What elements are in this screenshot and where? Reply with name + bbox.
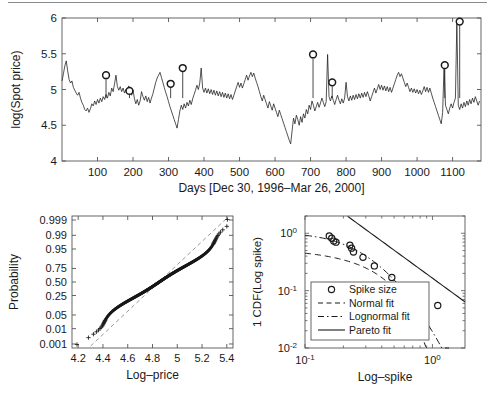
plot-frame xyxy=(72,216,233,348)
y-tick-label: 0.01 xyxy=(46,323,67,335)
y-tick-label: 0.95 xyxy=(46,243,67,255)
y-tick-label: 4 xyxy=(51,155,58,167)
x-axis-label: Days [Dec 30, 1996–Mar 26, 2000] xyxy=(178,181,364,195)
x-tick-label: 100 xyxy=(424,353,441,366)
x-tick-label: 10-1 xyxy=(295,353,315,366)
x-tick-label: 700 xyxy=(301,166,320,178)
legend-label: Spike size xyxy=(349,283,397,295)
x-tick-label: 900 xyxy=(372,166,391,178)
y-tick-label: 100 xyxy=(280,226,297,239)
series-line xyxy=(62,22,480,144)
plus-marker xyxy=(86,336,90,340)
spike-marker xyxy=(167,80,174,87)
x-tick-label: 200 xyxy=(123,166,142,178)
header-rule xyxy=(8,2,487,3)
figure-container: 1002003004005006007008009001000110044.55… xyxy=(0,0,495,402)
x-tick-label: 4.4 xyxy=(95,352,110,364)
spike-size-point xyxy=(435,302,441,308)
spike-marker xyxy=(126,88,133,95)
chart-spike-tail: 10-110010010-110-2Spike sizeNormal fitLo… xyxy=(247,198,495,402)
y-tick-label: 5.5 xyxy=(41,48,57,60)
y-axis-label: log(Spot price) xyxy=(9,50,23,128)
x-tick-label: 300 xyxy=(159,166,178,178)
data-points xyxy=(75,217,230,346)
plus-marker xyxy=(91,332,95,336)
chart-spot-price: 1002003004005006007008009001000110044.55… xyxy=(0,6,495,198)
spike-marker xyxy=(179,65,186,72)
x-tick-label: 600 xyxy=(265,166,284,178)
legend-label: Lognormal fit xyxy=(349,310,410,322)
chart-probability: 4.24.44.64.855.25.40.0010.010.050.250.50… xyxy=(0,198,248,402)
y-axis-label: Probability xyxy=(7,254,21,310)
x-tick-label: 100 xyxy=(88,166,107,178)
y-tick-label: 0.05 xyxy=(46,309,67,321)
spike-size-point xyxy=(360,254,366,260)
spike-marker xyxy=(310,51,317,58)
spike-marker xyxy=(441,62,448,69)
spike-size-point xyxy=(389,274,395,280)
plot-frame xyxy=(62,18,481,161)
x-tick-label: 500 xyxy=(230,166,249,178)
spike-marker xyxy=(456,18,463,25)
x-tick-label: 4.6 xyxy=(120,352,135,364)
x-tick-label: 1100 xyxy=(440,166,465,178)
y-tick-label: 10-1 xyxy=(278,284,298,297)
y-tick-label: 0.25 xyxy=(46,290,67,302)
x-tick-label: 4.8 xyxy=(145,352,160,364)
spike-size-point xyxy=(371,263,377,269)
plus-marker xyxy=(225,217,229,221)
x-tick-label: 400 xyxy=(194,166,213,178)
y-tick-label: 10-2 xyxy=(278,341,298,354)
x-tick-label: 1000 xyxy=(404,166,430,178)
plus-marker xyxy=(225,224,229,228)
y-tick-label: 5 xyxy=(51,84,57,96)
y-tick-label: 0.75 xyxy=(46,262,67,274)
panel-normal-probability-plot: 4.24.44.64.855.25.40.0010.010.050.250.50… xyxy=(0,198,248,402)
x-tick-label: 5 xyxy=(174,352,180,364)
y-tick-label: 0.99 xyxy=(46,229,67,241)
panel-spot-price-timeseries: 1002003004005006007008009001000110044.55… xyxy=(0,6,495,198)
plus-marker xyxy=(221,228,225,232)
spike-marker xyxy=(329,79,336,86)
legend-label: Normal fit xyxy=(349,297,394,309)
y-tick-label: 0.001 xyxy=(39,338,67,350)
x-tick-label: 4.2 xyxy=(71,352,86,364)
x-tick-label: 5.2 xyxy=(194,352,209,364)
x-tick-label: 5.4 xyxy=(219,352,234,364)
x-axis-label: Log–price xyxy=(126,368,179,382)
panel-spike-tail-plot: 10-110010010-110-2Spike sizeNormal fitLo… xyxy=(247,198,495,402)
legend-label: Pareto fit xyxy=(349,324,391,336)
spike-marker xyxy=(103,72,110,79)
x-tick-label: 800 xyxy=(336,166,355,178)
y-tick-label: 0.999 xyxy=(39,214,67,226)
y-tick-label: 6 xyxy=(51,12,57,24)
y-tick-label: 0.50 xyxy=(46,276,67,288)
y-tick-label: 4.5 xyxy=(41,119,57,131)
x-axis-label: Log–spike xyxy=(358,370,413,384)
y-axis-label: 1 CDF(Log spike) xyxy=(251,237,263,327)
